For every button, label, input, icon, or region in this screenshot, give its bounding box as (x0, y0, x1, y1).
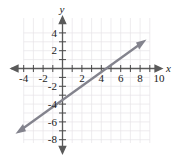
coordinate-plane-figure: -4 -2 2 4 6 8 10 4 2 -2 -4 -6 -8 y x (0, 0, 179, 159)
x-tick-label: 8 (137, 72, 143, 84)
y-tick-label: 2 (52, 44, 58, 56)
plotted-line-group (16, 40, 147, 134)
line-arrow-upper-right (136, 40, 147, 50)
x-tick-label: -2 (39, 72, 48, 84)
x-axis-label: x (165, 62, 171, 74)
y-tick-label: 4 (52, 27, 58, 39)
graph-canvas: -4 -2 2 4 6 8 10 4 2 -2 -4 -6 -8 y x (0, 0, 179, 159)
y-tick-label: -8 (48, 133, 58, 145)
x-tick-label: 6 (118, 72, 124, 84)
plotted-line (21, 44, 141, 131)
x-tick-label: -4 (19, 72, 29, 84)
x-tick-label: 10 (154, 72, 166, 84)
y-axis-tick-labels: 4 2 -2 -4 -6 -8 (48, 27, 58, 146)
y-tick-label: -4 (48, 98, 58, 110)
y-axis-arrow-up (59, 17, 65, 24)
y-tick-label: -2 (48, 80, 57, 92)
y-axis-label: y (59, 3, 65, 15)
x-axis-arrow-left (11, 65, 18, 71)
y-tick-label: -6 (48, 116, 58, 128)
x-tick-label: 2 (79, 72, 85, 84)
y-axis-arrow-down (59, 147, 65, 154)
line-arrow-lower-left (16, 124, 27, 134)
x-tick-label: 4 (99, 72, 105, 84)
